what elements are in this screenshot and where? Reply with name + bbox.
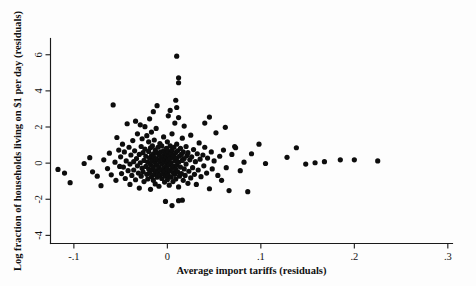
data-point [90,169,95,174]
data-point [68,180,73,185]
data-point [133,119,138,124]
data-point [322,159,327,164]
data-points-group [55,54,380,209]
data-point [148,187,153,192]
data-point [312,160,317,165]
data-point [126,168,131,173]
data-point [188,133,193,138]
data-point [192,172,197,177]
data-point [202,120,207,125]
data-point [200,152,205,157]
data-point [133,177,138,182]
data-point [173,98,178,103]
data-point [204,170,209,175]
data-point [128,152,133,157]
data-point [224,165,229,170]
data-point [127,182,132,187]
data-point [256,142,261,147]
data-point [249,151,254,156]
data-point [185,150,190,155]
data-point [168,108,173,113]
data-point [213,130,218,135]
data-point [223,125,228,130]
data-point [109,172,114,177]
data-point [151,109,156,114]
data-point [221,148,226,153]
data-point [202,145,207,150]
data-point [118,154,123,159]
x-tick-label: .2 [350,251,358,262]
data-point [210,166,215,171]
data-point [149,129,154,134]
data-point [303,161,308,166]
data-point [294,145,299,150]
data-point [156,184,161,189]
x-axis-ticks: -.10.1.2.3 [68,244,452,262]
x-axis-title: Average import tariffs (residuals) [177,265,327,277]
data-point [137,185,142,190]
data-point [201,163,206,168]
data-point [176,75,181,80]
data-point [163,199,168,204]
data-point [154,103,159,108]
data-point [123,176,128,181]
data-point [174,54,179,59]
y-tick-label: 0 [33,161,44,166]
x-tick-label: -.1 [68,251,79,262]
data-point [176,115,181,120]
data-point [183,144,188,149]
data-point [98,183,103,188]
y-tick-label: 6 [33,52,44,57]
data-point [167,183,172,188]
data-point [132,148,137,153]
data-point [245,189,250,194]
data-point [62,170,67,175]
data-point [226,188,231,193]
data-point [169,203,174,208]
data-point [174,105,179,110]
data-point [87,155,92,160]
data-point [114,135,119,140]
data-point [198,174,203,179]
data-point [176,184,181,189]
data-point [95,174,100,179]
data-point [126,145,131,150]
data-point [215,173,220,178]
data-point [107,151,112,156]
x-tick-label: .1 [257,251,265,262]
data-point [152,137,157,142]
data-point [140,136,145,141]
data-point [207,186,212,191]
data-point [238,168,243,173]
data-point [191,147,196,152]
y-tick-label: -2 [33,195,44,204]
data-point [183,173,188,178]
data-point [55,167,60,172]
data-point [174,142,179,147]
data-point [185,181,190,186]
data-point [146,139,151,144]
data-point [338,157,343,162]
data-point [190,165,195,170]
data-point [131,167,136,172]
data-point [197,140,202,145]
data-point [112,160,117,165]
data-point [82,161,87,166]
y-axis-title: Log fraction of households living on $1 … [12,10,24,271]
data-point [182,124,187,129]
data-point [180,198,185,203]
data-point [196,167,201,172]
data-point [219,178,224,183]
x-tick-label: .3 [444,251,452,262]
data-point [182,166,187,171]
data-point [263,161,268,166]
data-point [188,175,193,180]
data-point [207,114,212,119]
data-point [142,124,147,129]
scatter-plot-figure: -.10.1.2.3 -4-20246 Average import tarif… [0,0,476,286]
data-point [205,155,210,160]
data-point [166,113,171,118]
data-point [183,161,188,166]
data-point [176,80,181,85]
data-point [121,165,126,170]
